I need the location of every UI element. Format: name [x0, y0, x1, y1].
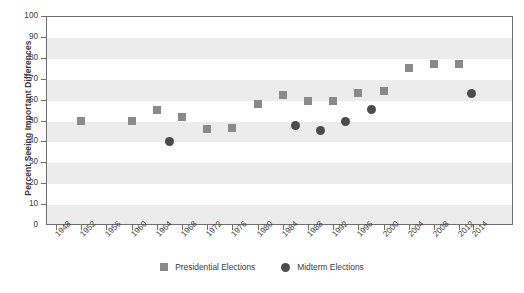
scatter-chart: Percent Seeing Important Differences 010… [0, 0, 524, 293]
data-point [203, 125, 211, 133]
data-point [304, 97, 312, 105]
y-axis-tick-label: 20 [10, 179, 38, 187]
data-point [153, 106, 161, 114]
grid-band [47, 122, 512, 143]
y-axis-tick-label: 90 [10, 33, 38, 41]
legend-label: Presidential Elections [175, 262, 255, 272]
grid-band [47, 163, 512, 184]
circle-marker-icon [281, 263, 290, 272]
y-axis-tick [41, 79, 46, 80]
chart-legend: Presidential ElectionsMidterm Elections [0, 262, 524, 272]
y-axis-tick [41, 16, 46, 17]
y-axis-tick-label: 50 [10, 117, 38, 125]
y-axis-tick [41, 100, 46, 101]
y-axis-tick-label: 60 [10, 96, 38, 104]
data-point [367, 105, 376, 114]
data-point [279, 91, 287, 99]
y-axis-tick [41, 37, 46, 38]
y-axis-tick-label: 40 [10, 137, 38, 145]
legend-item[interactable]: Presidential Elections [160, 262, 255, 272]
grid-band [47, 38, 512, 59]
y-axis-tick-label: 0 [10, 221, 38, 229]
data-point [354, 89, 362, 97]
data-point [165, 137, 174, 146]
y-axis-tick [41, 162, 46, 163]
plot-area [46, 16, 513, 225]
y-axis-tick-label: 100 [10, 12, 38, 20]
data-point [455, 60, 463, 68]
data-point [254, 100, 262, 108]
data-point [380, 87, 388, 95]
legend-item[interactable]: Midterm Elections [281, 262, 364, 272]
y-axis-tick-label: 30 [10, 158, 38, 166]
y-axis-tick [41, 141, 46, 142]
data-point [228, 124, 236, 132]
y-axis-tick [41, 204, 46, 205]
data-point [178, 113, 186, 121]
y-axis-tick-label: 70 [10, 75, 38, 83]
y-axis-tick [41, 183, 46, 184]
data-point [77, 117, 85, 125]
data-point [430, 60, 438, 68]
data-point [329, 97, 337, 105]
square-marker-icon [160, 263, 168, 271]
data-point [128, 117, 136, 125]
y-axis-tick-label: 80 [10, 54, 38, 62]
data-point [405, 64, 413, 72]
y-axis-tick [41, 121, 46, 122]
legend-label: Midterm Elections [297, 262, 364, 272]
y-axis-tick [41, 58, 46, 59]
y-axis-tick-label: 10 [10, 200, 38, 208]
